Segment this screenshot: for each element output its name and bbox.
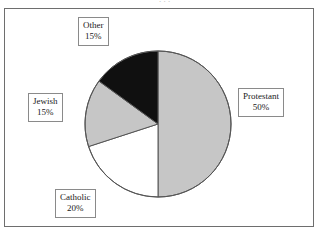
pie-label-protestant-pct: 50% [243,102,279,113]
pie-label-jewish-name: Jewish [33,96,58,107]
pie-slice-group [85,51,231,197]
pie-label-other-name: Other [83,20,104,31]
pie-label-jewish-pct: 15% [33,107,58,118]
pie-label-other: Other 15% [78,17,109,46]
pie-label-catholic-name: Catholic [60,192,91,203]
pie-label-protestant: Protestant 50% [238,88,284,117]
pie-label-jewish: Jewish 15% [28,93,63,122]
pie-label-protestant-name: Protestant [243,91,279,102]
pie-label-catholic-pct: 20% [60,203,91,214]
pie-label-catholic: Catholic 20% [55,189,96,218]
pie-label-other-pct: 15% [83,31,104,42]
pie-chart: Other 15% Protestant 50% Jewish 15% Cath… [0,0,329,236]
pie-slice-protestant [158,51,231,197]
